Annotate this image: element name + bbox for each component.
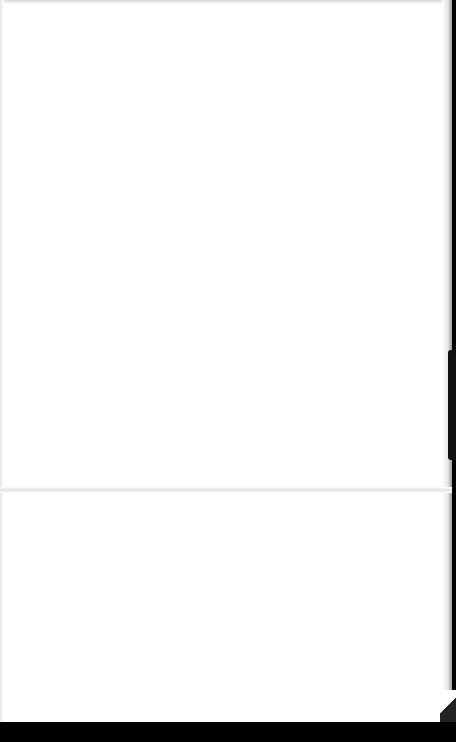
blank-page: [0, 0, 452, 722]
fold-crease: [0, 487, 452, 493]
right-edge-dark-region: [448, 350, 456, 460]
scanner-bed-band: [0, 722, 456, 742]
left-edge-shadow: [0, 0, 4, 722]
curled-corner: [440, 690, 456, 722]
top-edge-shadow: [0, 0, 452, 4]
